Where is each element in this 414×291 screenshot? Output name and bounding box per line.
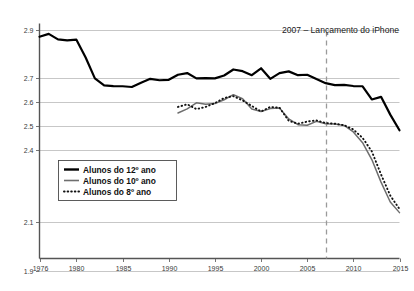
series-line-8th-grade: [178, 96, 400, 209]
x-tick-label: 1980: [69, 265, 85, 272]
x-tick-label: 2005: [300, 265, 316, 272]
x-tick-label: 1990: [162, 265, 178, 272]
y-tick-label: 2.4: [24, 147, 34, 154]
legend-label-12th-grade: Alunos do 12º ano: [83, 165, 156, 175]
y-axis-tick-labels: 2.92.72.62.52.42.11.9: [24, 27, 34, 275]
y-tick-label: 2.5: [24, 123, 34, 130]
x-tick-label: 2000: [254, 265, 270, 272]
line-chart: 2.92.72.62.52.42.11.9 197619801985199019…: [0, 0, 414, 291]
x-axis-tick-labels: 197619801985199019952000200520102015: [33, 265, 409, 272]
legend-label-8th-grade: Alunos do 8º ano: [83, 187, 151, 197]
y-tick-label: 2.7: [24, 75, 34, 82]
y-tick-label: 2.9: [24, 27, 34, 34]
series-line-12th-grade: [40, 34, 400, 130]
legend-label-10th-grade: Alunos do 10º ano: [83, 176, 156, 186]
chart-container: 2.92.72.62.52.42.11.9 197619801985199019…: [0, 0, 414, 291]
y-tick-label: 2.6: [24, 99, 34, 106]
y-tick-label: 2.1: [24, 219, 34, 226]
x-tick-label: 1995: [208, 265, 224, 272]
iphone-launch-annotation: 2007 – Lançamento do iPhone: [282, 25, 399, 35]
legend: Alunos do 12º ano Alunos do 10º ano Alun…: [59, 161, 177, 201]
x-tick-label: 2010: [346, 265, 362, 272]
x-tick-label: 1976: [33, 265, 49, 272]
series-line-10th-grade: [178, 95, 400, 213]
gridlines: [40, 31, 400, 272]
x-tick-label: 2015: [393, 265, 409, 272]
x-tick-label: 1985: [116, 265, 132, 272]
